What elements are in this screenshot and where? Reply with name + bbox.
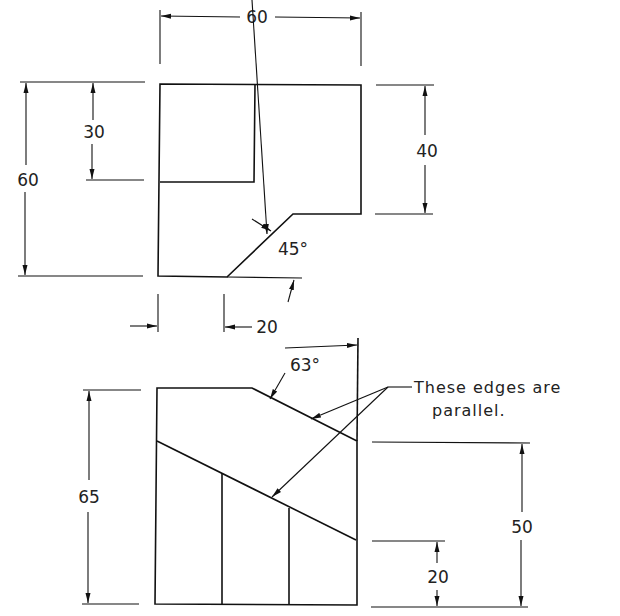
dim-label-40: 40 (416, 141, 438, 161)
dim-label-30: 30 (83, 122, 105, 142)
technical-drawing: 60 60 30 40 (0, 0, 620, 616)
dim-label-60-left: 60 (17, 170, 39, 190)
dim-label-60-top: 60 (246, 7, 268, 27)
dim-height-50: 50 (371, 442, 533, 607)
dim-width-60: 60 (160, 7, 361, 66)
front-view: 63° These edges are parallel. 65 50 (78, 338, 561, 607)
parallel-note-line2: parallel. (432, 401, 506, 420)
front-view-lower-sloped-edge (157, 441, 356, 540)
dim-height-20: 20 (372, 541, 449, 606)
dim-label-45: 45° (278, 239, 308, 259)
dim-height-65: 65 (78, 390, 141, 604)
dim-label-65: 65 (78, 487, 100, 507)
dim-label-63: 63° (290, 355, 320, 375)
parallel-note-line1: These edges are (413, 378, 561, 397)
dim-height-60: 60 (17, 82, 145, 276)
dim-label-20-right: 20 (427, 567, 449, 587)
dim-label-20-bottom: 20 (256, 317, 278, 337)
top-view-inner-rect (160, 84, 255, 182)
dim-offset-20: 20 (130, 294, 278, 337)
dim-label-50: 50 (511, 517, 533, 537)
dim-height-40: 40 (375, 85, 438, 214)
dim-angle-45: 45° (227, 0, 308, 302)
front-view-outline (155, 388, 357, 605)
front-view-right-edge-extension (357, 338, 358, 441)
dim-angle-63: 63° (270, 345, 357, 399)
top-view: 60 60 30 40 (17, 0, 438, 337)
dim-height-30: 30 (83, 83, 144, 180)
